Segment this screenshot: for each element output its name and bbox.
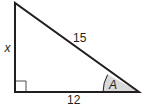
label-base: 12 [67, 93, 81, 105]
triangle [15, 3, 139, 92]
label-angle-a: A [108, 78, 117, 92]
label-hypotenuse: 15 [73, 31, 87, 45]
right-triangle-diagram: x 15 12 A [0, 0, 148, 105]
right-angle-marker [15, 81, 26, 92]
label-x: x [4, 41, 12, 55]
